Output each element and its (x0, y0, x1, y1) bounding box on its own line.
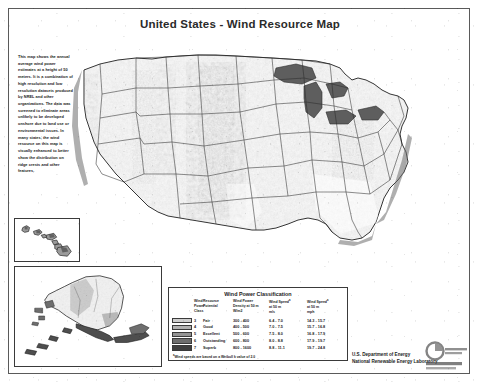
legend-header-class: Wind Power Class (194, 299, 203, 317)
hawaii-inset-svg (15, 219, 79, 261)
footnote-marker-ms: a (289, 299, 290, 302)
page-title: United States - Wind Resource Map (0, 18, 480, 30)
legend-cell-speed-ms: 8.8 - 11.1 (269, 344, 307, 351)
footnote-marker-mph: a (327, 299, 328, 302)
legend-cell-potential: Good (203, 324, 233, 331)
legend-row: 5Excellent500 - 6007.5 - 8.016.8 - 17.9 (172, 331, 345, 338)
legend-cell-potential: Superb (203, 344, 233, 351)
legend-cell-speed-ms: 6.4 - 7.0 (269, 317, 307, 324)
legend-cell-potential: Outstanding (203, 338, 233, 345)
legend-header-speed-mph: Wind Speeda at 50 m mph (307, 299, 345, 317)
legend-swatch-cell (172, 324, 194, 331)
legend-swatch-cell (172, 331, 194, 338)
legend-header-swatch (172, 299, 194, 317)
wind-resource-map-page: United States - Wind Resource Map (0, 0, 480, 384)
legend-title: Wind Power Classification (172, 291, 344, 297)
legend-cell-class: 7 (194, 344, 203, 351)
legend-row: 4Good400 - 5007.0 - 7.515.7 - 16.8 (172, 324, 345, 331)
conus-map (40, 34, 448, 289)
legend-cell-class: 4 (194, 324, 203, 331)
legend-cell-speed-ms: 7.5 - 8.0 (269, 331, 307, 338)
legend-footnote: aWind speeds are based on a Weibull k va… (173, 354, 255, 359)
legend-cell-speed-mph: 19.7 - 24.8 (307, 344, 345, 351)
nrel-logo (424, 340, 470, 374)
legend-header-row: Wind Power Class Resource Potential Wind… (172, 299, 345, 317)
legend-cell-density: 800 - 1600 (233, 344, 269, 351)
legend-cell-speed-ms: 8.0 - 8.8 (269, 338, 307, 345)
alaska-inset (14, 266, 162, 367)
hawaii-inset (14, 218, 80, 262)
wind-resource-raster (40, 34, 448, 289)
legend-swatch-cell (172, 338, 194, 345)
legend-cell-potential: Excellent (203, 331, 233, 338)
legend-cell-speed-ms: 7.0 - 7.5 (269, 324, 307, 331)
legend-color-swatch (172, 332, 192, 337)
legend-cell-speed-mph: 14.3 - 15.7 (307, 317, 345, 324)
legend-color-swatch (172, 325, 192, 330)
legend-cell-speed-mph: 17.9 - 19.7 (307, 338, 345, 345)
legend-cell-density: 300 - 400 (233, 317, 269, 324)
legend-row: 7Superb800 - 16008.8 - 11.119.7 - 24.8 (172, 344, 345, 351)
conus-map-svg (40, 34, 448, 289)
nrel-logo-svg (424, 340, 470, 374)
legend-cell-potential: Fair (203, 317, 233, 324)
legend-cell-class: 5 (194, 331, 203, 338)
legend-header-potential: Resource Potential (203, 299, 233, 317)
legend-color-swatch (172, 318, 192, 323)
legend-header-density: Wind Power Density at 50 m W/m2 (233, 299, 269, 317)
legend-swatch-cell (172, 344, 194, 351)
legend-cell-density: 500 - 600 (233, 331, 269, 338)
alaska-inset-svg (15, 267, 161, 366)
wind-power-classification-legend: Wind Power Classification Wind Power Cla… (168, 287, 348, 361)
legend-color-swatch (172, 345, 192, 350)
legend-cell-class: 6 (194, 338, 203, 345)
legend-table: Wind Power Class Resource Potential Wind… (172, 299, 345, 351)
map-description-text: This map shows the annual average wind p… (18, 54, 74, 175)
legend-row: 6Outstanding600 - 8008.0 - 8.817.9 - 19.… (172, 338, 345, 345)
legend-row: 3Fair300 - 4006.4 - 7.014.3 - 15.7 (172, 317, 345, 324)
legend-cell-speed-mph: 16.8 - 17.9 (307, 331, 345, 338)
legend-cell-speed-mph: 15.7 - 16.8 (307, 324, 345, 331)
legend-swatch-cell (172, 317, 194, 324)
legend-header-speed-ms: Wind Speeda at 50 m m/s (269, 299, 307, 317)
legend-cell-class: 3 (194, 317, 203, 324)
legend-cell-density: 600 - 800 (233, 338, 269, 345)
legend-color-swatch (172, 338, 192, 343)
legend-cell-density: 400 - 500 (233, 324, 269, 331)
